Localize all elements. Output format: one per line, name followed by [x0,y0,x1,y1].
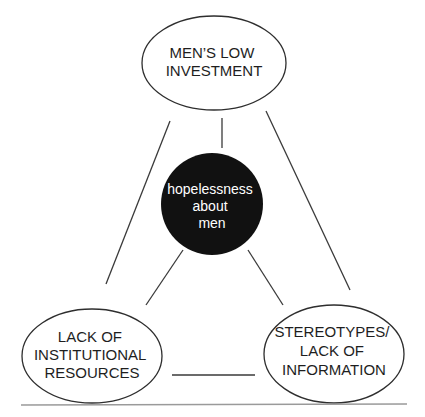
center-label-line: about [193,198,228,214]
center-label-line: men [198,215,225,231]
svg-text:MEN’S LOW INVESTMENT: MEN’S LOW INVESTMENT [166,44,263,79]
bottom-divider [21,404,407,405]
node-label-line: INFORMATION [282,361,386,378]
node-label-line: STEREOTYPES/ [274,323,390,340]
node-label-line: LACK OF [58,328,122,345]
node-mens-low-investment: MEN’S LOW INVESTMENT [142,16,286,110]
node-label-line: INSTITUTIONAL [34,346,146,363]
edge-center-to-bottom-right [248,250,283,305]
center-node-hopelessness: hopelessness about men [161,153,263,255]
node-label-line: INVESTMENT [166,62,263,79]
center-label-line: hopelessness [167,181,253,197]
diagram-canvas: MEN’S LOW INVESTMENT hopelessness about … [0,0,425,417]
edge-top-to-bottom-right [266,111,350,290]
node-label-line: MEN’S LOW [169,44,255,61]
node-label-line: RESOURCES [44,364,139,381]
node-label-line: LACK OF [300,342,364,359]
node-stereotypes-lack-of-information: STEREOTYPES/ LACK OF INFORMATION [264,305,404,403]
edge-center-to-bottom-left [146,250,183,305]
node-lack-of-institutional-resources: LACK OF INSTITUTIONAL RESOURCES [22,309,162,403]
edge-top-to-bottom-left [106,121,170,284]
